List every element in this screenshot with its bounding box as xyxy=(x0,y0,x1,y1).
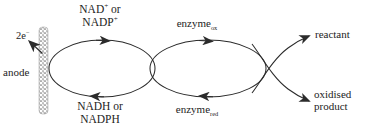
electron-label: 2e− xyxy=(16,30,30,42)
cofactor-reduced-label: NADH or NADPH xyxy=(56,100,144,126)
cofactor-bottom-arrowhead xyxy=(91,96,104,97)
electron-charge-superscript: − xyxy=(26,29,30,36)
enzyme-ox-subscript: ox xyxy=(211,24,217,31)
oxidised-product-outflow-curve xyxy=(252,44,309,101)
nadph-line: NADPH xyxy=(80,113,120,125)
nadp-charge-superscript: + xyxy=(114,15,118,23)
enzyme-reduced-label: enzymered xyxy=(160,103,234,115)
anode-body xyxy=(39,27,48,114)
cofactor-top-arrowhead xyxy=(96,40,109,41)
substrate-branch xyxy=(252,36,309,101)
nadh-line: NADH or xyxy=(77,100,123,112)
anode-label: anode xyxy=(3,66,29,78)
oxidised-product-label: oxidised product xyxy=(314,88,370,113)
nadp-plus-line: NADP+ xyxy=(82,16,117,28)
cofactor-oxidised-label: NAD+ or NADP+ xyxy=(58,3,142,29)
reactant-inflow-curve xyxy=(252,36,309,93)
enzyme-oxidised-label: enzymeox xyxy=(160,17,234,29)
enzyme-electron-transfer-diagram: NAD+ or NADP+ NADH or NADPH enzymeox enz… xyxy=(0,0,370,131)
nad-plus-line: NAD+ or xyxy=(79,3,120,15)
oxidised-product-line2: product xyxy=(314,100,348,112)
enzyme-cycle-ellipse xyxy=(150,40,266,97)
oxidised-product-line1: oxidised xyxy=(314,88,351,100)
anode-electrode xyxy=(39,27,48,114)
cofactor-cycle-ellipse xyxy=(49,40,155,97)
reactant-label: reactant xyxy=(315,28,350,40)
enzyme-red-subscript: red xyxy=(210,110,218,117)
